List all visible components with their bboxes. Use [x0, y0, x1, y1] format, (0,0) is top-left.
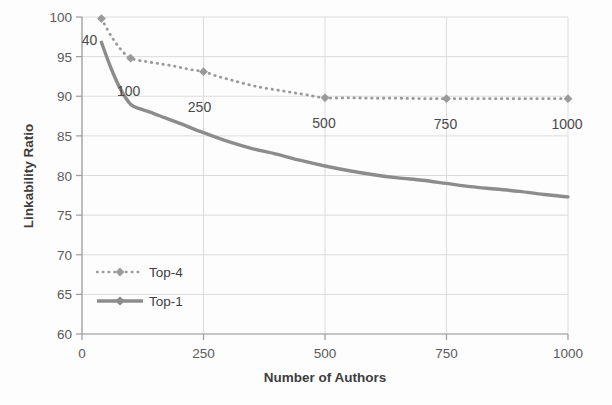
- x-tick-label: 500: [314, 346, 337, 361]
- y-tick-label: 60: [57, 327, 72, 342]
- chart-background: [0, 0, 612, 405]
- y-tick-label: 90: [57, 89, 72, 104]
- y-axis-title-text: Linkability Ratio: [21, 124, 36, 228]
- y-tick-label: 80: [57, 169, 72, 184]
- y-tick-label: 85: [57, 129, 72, 144]
- point-annotation-label: 750: [434, 116, 458, 132]
- y-tick-label: 75: [57, 208, 72, 223]
- x-tick-label: 250: [192, 346, 215, 361]
- x-axis-title-text: Number of Authors: [264, 370, 387, 385]
- point-annotation-label: 40: [82, 32, 98, 48]
- y-tick-label: 70: [57, 248, 72, 263]
- point-annotation-label: 100: [117, 83, 141, 99]
- y-tick-label: 65: [57, 287, 72, 302]
- chart-container: 6065707580859095100 02505007501000 40100…: [0, 0, 612, 405]
- x-tick-label: 750: [435, 346, 458, 361]
- point-annotation-label: 1000: [551, 116, 582, 132]
- linkability-ratio-line-chart: 6065707580859095100 02505007501000 40100…: [0, 0, 612, 405]
- x-tick-label: 0: [78, 346, 86, 361]
- point-annotation-label: 250: [188, 99, 212, 115]
- legend-label-top4: Top-4: [149, 265, 183, 280]
- x-tick-label: 1000: [553, 346, 583, 361]
- y-axis-title: Linkability Ratio: [21, 124, 36, 228]
- legend-label-top1: Top-1: [149, 294, 183, 309]
- point-annotation-label: 500: [312, 115, 336, 131]
- y-tick-label: 100: [49, 10, 72, 25]
- y-tick-label: 95: [57, 50, 72, 65]
